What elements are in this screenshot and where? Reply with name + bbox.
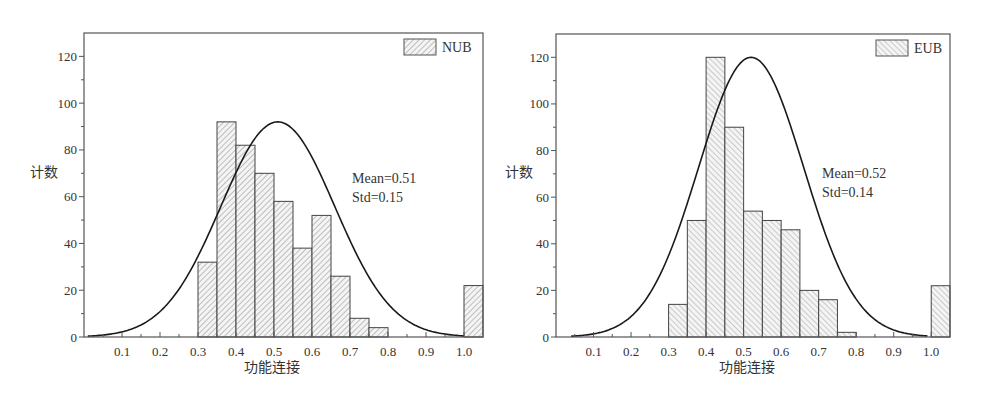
bars [669,57,950,337]
legend-swatch [404,39,436,55]
x-tick-label: 0.5 [266,344,282,359]
histogram-eub: 0204060801001200.10.20.30.40.50.60.70.80… [505,34,950,375]
histogram-bar [819,300,838,337]
x-tick-label: 0.9 [418,344,434,359]
bars [198,122,483,337]
y-tick-label: 120 [530,50,550,65]
x-tick-label: 0.1 [114,344,130,359]
y-tick-label: 60 [536,190,549,205]
histogram-bar [800,290,819,337]
histogram-bar [931,286,950,337]
legend-label: EUB [914,41,942,56]
y-axis: 020406080100120 [58,49,85,345]
x-tick-label: 0.1 [585,344,601,359]
histogram-bar [706,57,725,337]
legend-swatch [876,40,908,56]
histogram-bar [198,262,217,337]
y-tick-label: 80 [536,143,549,158]
histogram-bar [236,145,255,337]
y-axis-title: 计数 [505,164,533,180]
std-annotation: Std=0.15 [352,190,403,205]
histogram-bar [293,248,312,337]
legend: NUB [404,39,472,55]
x-tick-label: 0.7 [342,344,359,359]
histogram-bar [331,276,350,337]
y-tick-label: 20 [536,283,549,298]
figure: 0204060801001200.10.20.30.40.50.60.70.80… [0,0,990,407]
y-tick-label: 20 [64,283,77,298]
histogram-bar [837,332,856,337]
histogram-bar [762,220,781,337]
x-tick-label: 0.8 [380,344,396,359]
y-tick-label: 120 [58,49,78,64]
histogram-bar [669,304,688,337]
x-tick-label: 0.3 [660,344,676,359]
y-tick-label: 0 [543,330,550,345]
legend-label: NUB [442,40,472,55]
x-tick-label: 0.7 [811,344,828,359]
histogram-bar [350,318,369,337]
mean-annotation: Mean=0.52 [822,166,886,181]
x-tick-label: 0.6 [773,344,790,359]
legend: EUB [876,40,942,56]
histogram-bar [464,286,483,337]
y-tick-label: 100 [58,96,78,111]
x-axis-title: 功能连接 [719,359,775,375]
x-tick-label: 0.4 [228,344,245,359]
y-tick-label: 0 [71,330,78,345]
x-tick-label: 0.2 [152,344,168,359]
x-tick-label: 1.0 [923,344,939,359]
x-tick-label: 0.2 [623,344,639,359]
y-tick-label: 60 [64,189,77,204]
std-annotation: Std=0.14 [822,185,873,200]
y-tick-label: 100 [530,96,550,111]
histogram-bar [312,215,331,337]
histogram-bar [781,230,800,337]
x-axis-title: 功能连接 [244,359,300,375]
histogram-nub: 0204060801001200.10.20.30.40.50.60.70.80… [30,33,483,375]
histogram-bar [274,201,293,337]
x-tick-label: 0.3 [190,344,206,359]
histogram-bar [687,220,706,337]
y-axis-title: 计数 [30,164,58,180]
histogram-bar [217,122,236,337]
y-axis: 020406080100120 [530,50,557,345]
histogram-bar [744,211,763,337]
x-tick-label: 0.4 [698,344,715,359]
histogram-bar [369,328,388,337]
histogram-bar [255,173,274,337]
y-tick-label: 40 [536,236,549,251]
y-tick-label: 40 [64,236,77,251]
x-tick-label: 0.9 [886,344,902,359]
x-tick-label: 1.0 [456,344,472,359]
mean-annotation: Mean=0.51 [352,171,416,186]
histogram-bar [725,127,744,337]
x-tick-label: 0.8 [848,344,864,359]
y-tick-label: 80 [64,142,77,157]
x-tick-label: 0.6 [304,344,321,359]
x-tick-label: 0.5 [735,344,751,359]
